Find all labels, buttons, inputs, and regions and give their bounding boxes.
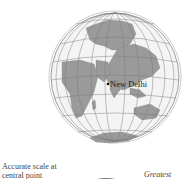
caption-accurate-scale: Accurate scale at central point (2, 162, 72, 179)
city-label: New Delhi (110, 79, 147, 89)
secondary-globe-fragment (92, 178, 120, 179)
caption-line-1: Accurate scale at (2, 162, 72, 171)
new-delhi-marker (107, 83, 110, 86)
globe-map (0, 0, 189, 179)
caption-line-2: central point (2, 171, 72, 179)
caption-greatest: Greatest (144, 170, 171, 179)
